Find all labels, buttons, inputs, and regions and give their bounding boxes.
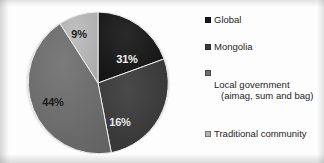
- legend-label-local-government-wrap: Local government (aimag, sum and bag): [214, 67, 313, 113]
- chart-legend: Global Mongolia Local government (aimag,…: [205, 14, 321, 151]
- pie-svg: 31% 16% 44% 9%: [18, 11, 178, 155]
- pie-label-traditional-community: 9%: [71, 28, 87, 40]
- legend-item-mongolia[interactable]: Mongolia: [205, 41, 321, 53]
- pie-label-global: 31%: [116, 53, 138, 65]
- legend-item-global[interactable]: Global: [205, 14, 321, 26]
- legend-swatch-traditional-community: [205, 131, 211, 137]
- legend-sublabel-local-government: (aimag, sum and bag): [214, 90, 313, 102]
- pie-label-local-government: 44%: [42, 96, 64, 108]
- legend-swatch-global: [205, 17, 211, 23]
- legend-item-traditional-community[interactable]: Traditional community: [205, 128, 321, 140]
- pie-label-mongolia: 16%: [109, 116, 131, 128]
- legend-item-local-government[interactable]: Local government (aimag, sum and bag): [205, 67, 321, 113]
- legend-label-mongolia: Mongolia: [214, 41, 253, 53]
- chart-area: 31% 16% 44% 9%: [0, 0, 196, 163]
- legend-swatch-local-government: [205, 70, 211, 76]
- legend-label-global: Global: [214, 14, 241, 26]
- legend-swatch-mongolia: [205, 44, 211, 50]
- pie-chart: 31% 16% 44% 9%: [18, 11, 178, 155]
- pie-chart-screenshot: 31% 16% 44% 9% Global Mongolia Local gov…: [0, 0, 324, 163]
- legend-label-local-government: Local government: [214, 79, 290, 90]
- legend-label-traditional-community: Traditional community: [214, 128, 307, 140]
